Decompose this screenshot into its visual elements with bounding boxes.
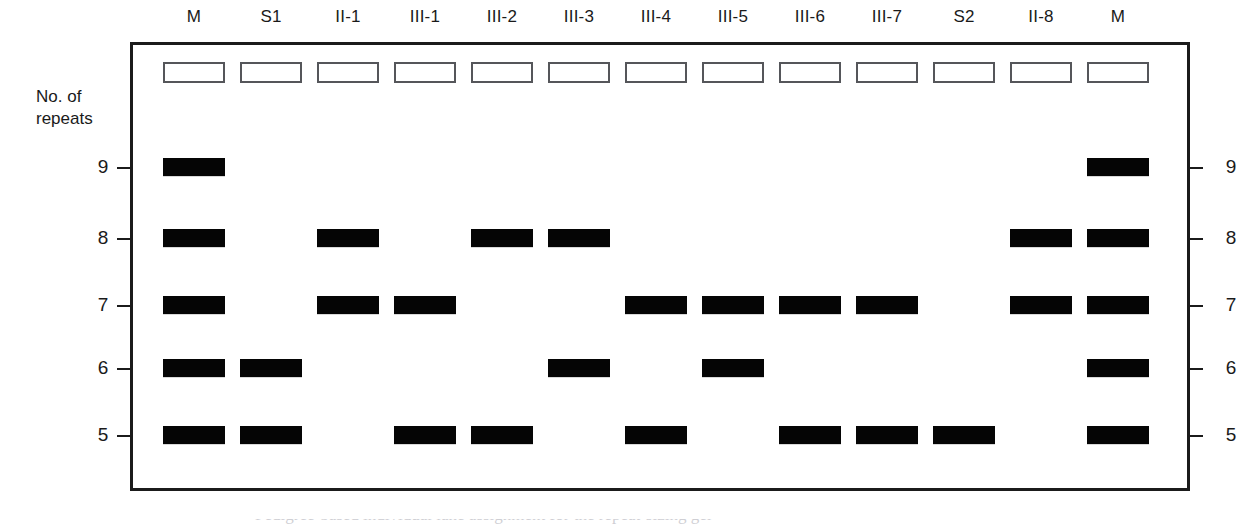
band-lane-3-repeats-7	[394, 296, 456, 314]
clipped-caption: Pedigree-based individual lane assignmen…	[0, 519, 1260, 527]
well-lane-2	[317, 62, 379, 83]
lane-label-ii-8-11: II-8	[1001, 6, 1081, 28]
lane-label-s2-10: S2	[924, 6, 1004, 28]
tick-mark-right-5	[1187, 435, 1203, 437]
tick-mark-right-6	[1187, 368, 1203, 370]
lane-label-iii-3-5: III-3	[539, 6, 619, 28]
band-lane-6-repeats-7	[625, 296, 687, 314]
band-lane-0-repeats-8	[163, 229, 225, 247]
tick-mark-left-5	[117, 435, 133, 437]
band-lane-5-repeats-6	[548, 359, 610, 377]
band-lane-5-repeats-8	[548, 229, 610, 247]
band-lane-1-repeats-6	[240, 359, 302, 377]
well-lane-4	[471, 62, 533, 83]
lane-label-iii-7-9: III-7	[847, 6, 927, 28]
tick-label-left-7: 7	[90, 295, 116, 314]
tick-label-right-5: 5	[1218, 425, 1244, 444]
well-lane-0	[163, 62, 225, 83]
lane-label-iii-4-6: III-4	[616, 6, 696, 28]
band-lane-12-repeats-6	[1087, 359, 1149, 377]
caption-text: Pedigree-based individual lane assignmen…	[255, 519, 712, 525]
well-lane-11	[1010, 62, 1072, 83]
tick-label-left-5: 5	[90, 425, 116, 444]
lane-label-s1-1: S1	[231, 6, 311, 28]
well-lane-1	[240, 62, 302, 83]
well-lane-12	[1087, 62, 1149, 83]
band-lane-3-repeats-5	[394, 426, 456, 444]
lane-label-iii-1-3: III-1	[385, 6, 465, 28]
well-lane-9	[856, 62, 918, 83]
band-lane-2-repeats-7	[317, 296, 379, 314]
lane-label-ii-1-2: II-1	[308, 6, 388, 28]
gel-frame	[130, 42, 1190, 491]
well-lane-3	[394, 62, 456, 83]
axis-title-line-1: No. of	[36, 86, 132, 108]
band-lane-8-repeats-5	[779, 426, 841, 444]
band-lane-1-repeats-5	[240, 426, 302, 444]
well-lane-8	[779, 62, 841, 83]
band-lane-12-repeats-9	[1087, 158, 1149, 176]
band-lane-12-repeats-7	[1087, 296, 1149, 314]
band-lane-7-repeats-7	[702, 296, 764, 314]
tick-mark-left-9	[117, 167, 133, 169]
tick-mark-right-7	[1187, 305, 1203, 307]
tick-mark-right-8	[1187, 238, 1203, 240]
band-lane-9-repeats-7	[856, 296, 918, 314]
band-lane-6-repeats-5	[625, 426, 687, 444]
band-lane-4-repeats-5	[471, 426, 533, 444]
tick-mark-right-9	[1187, 167, 1203, 169]
band-lane-4-repeats-8	[471, 229, 533, 247]
well-lane-10	[933, 62, 995, 83]
tick-mark-left-8	[117, 238, 133, 240]
gel-figure: No. of repeats MS1II-1III-1III-2III-3III…	[0, 0, 1260, 527]
band-lane-12-repeats-8	[1087, 229, 1149, 247]
well-lane-6	[625, 62, 687, 83]
band-lane-0-repeats-9	[163, 158, 225, 176]
tick-mark-left-6	[117, 368, 133, 370]
band-lane-11-repeats-8	[1010, 229, 1072, 247]
lane-label-m-0: M	[154, 6, 234, 28]
tick-label-left-8: 8	[90, 228, 116, 247]
band-lane-0-repeats-5	[163, 426, 225, 444]
band-lane-0-repeats-7	[163, 296, 225, 314]
axis-title-line-2: repeats	[36, 108, 132, 130]
tick-label-right-9: 9	[1218, 157, 1244, 176]
lane-label-iii-5-7: III-5	[693, 6, 773, 28]
tick-mark-left-7	[117, 305, 133, 307]
lane-label-iii-2-4: III-2	[462, 6, 542, 28]
band-lane-12-repeats-5	[1087, 426, 1149, 444]
tick-label-right-8: 8	[1218, 228, 1244, 247]
tick-label-right-6: 6	[1218, 358, 1244, 377]
band-lane-11-repeats-7	[1010, 296, 1072, 314]
tick-label-left-6: 6	[90, 358, 116, 377]
lane-label-iii-6-8: III-6	[770, 6, 850, 28]
axis-title: No. of repeats	[36, 86, 132, 130]
band-lane-0-repeats-6	[163, 359, 225, 377]
lane-label-m-12: M	[1078, 6, 1158, 28]
band-lane-2-repeats-8	[317, 229, 379, 247]
well-lane-7	[702, 62, 764, 83]
band-lane-9-repeats-5	[856, 426, 918, 444]
tick-label-right-7: 7	[1218, 295, 1244, 314]
tick-label-left-9: 9	[90, 157, 116, 176]
band-lane-7-repeats-6	[702, 359, 764, 377]
well-lane-5	[548, 62, 610, 83]
band-lane-10-repeats-5	[933, 426, 995, 444]
band-lane-8-repeats-7	[779, 296, 841, 314]
